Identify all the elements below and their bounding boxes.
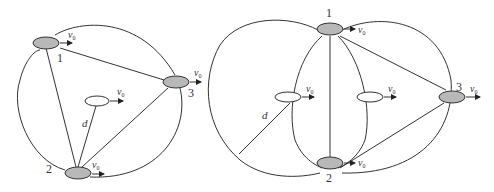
left-velocity-label-2: v0	[92, 159, 99, 171]
diagram-canvas: 1 3 2 v0 v0 v0 v0 d	[0, 0, 494, 192]
right-velocity-label-3: v0	[470, 83, 477, 95]
left-velocity-label-1: v0	[68, 29, 75, 41]
left-center-node	[85, 96, 109, 106]
left-diagram: 1 3 2 v0 v0 v0 v0 d	[17, 25, 201, 179]
left-node-2-label: 2	[46, 162, 52, 176]
right-diagram: 1 2 3 v0 v0 v0 v0 v0 d	[208, 6, 480, 185]
left-distance-label: d	[82, 117, 88, 129]
left-edge-1-2	[46, 48, 76, 167]
right-node-2-label: 2	[326, 171, 332, 185]
right-node-2	[317, 157, 343, 169]
right-distance-label: d	[262, 109, 268, 121]
right-node-1-label: 1	[326, 6, 332, 20]
right-lens-right-arc	[338, 36, 367, 168]
right-center-node-right	[357, 92, 383, 102]
right-lens-left-arc	[292, 36, 322, 168]
left-arc-1-3	[55, 25, 175, 75]
right-left-circle	[208, 20, 320, 176]
left-node-1-label: 1	[57, 51, 63, 65]
left-node-3-label: 3	[188, 86, 194, 100]
right-center-node-left	[275, 92, 301, 102]
right-velocity-label-2: v0	[358, 157, 365, 169]
right-velocity-label-1: v0	[358, 24, 365, 36]
right-node-3-label: 3	[456, 80, 462, 94]
right-velocity-label-center-right: v0	[388, 83, 395, 95]
left-node-1	[33, 37, 59, 49]
right-node-1	[317, 23, 343, 35]
left-velocity-label-3: v0	[194, 67, 201, 79]
left-node-3	[163, 76, 189, 88]
left-edge-1-3	[60, 48, 164, 80]
left-velocity-label-center: v0	[117, 86, 124, 98]
left-arc-2-1	[17, 50, 65, 170]
left-edge-d	[78, 106, 96, 167]
left-node-2	[65, 167, 91, 179]
right-edge-2-3	[340, 103, 444, 168]
right-velocity-label-center-left: v0	[306, 83, 313, 95]
